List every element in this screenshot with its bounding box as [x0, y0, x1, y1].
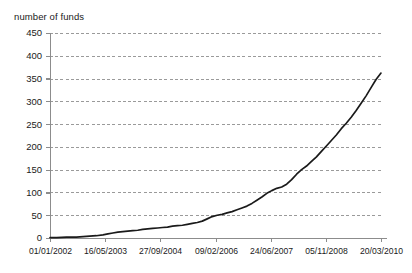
- y-tick-label: 400: [26, 50, 42, 61]
- gridlines-group: [50, 34, 381, 216]
- x-tick-label: 05/11/2008: [305, 246, 348, 256]
- y-tick-label: 200: [26, 141, 42, 152]
- x-tick-labels-group: 01/01/200216/05/200327/09/200409/02/2006…: [29, 246, 403, 256]
- x-tick-label: 09/02/2006: [195, 246, 238, 256]
- chart-container: number of funds 050100150200250300350400…: [0, 0, 412, 273]
- y-tick-label: 50: [31, 210, 42, 221]
- y-tick-label: 150: [26, 164, 42, 175]
- x-tick-label: 20/03/2010: [360, 246, 403, 256]
- y-tick-label: 250: [26, 119, 42, 130]
- x-tick-label: 01/01/2002: [29, 246, 72, 256]
- y-tick-label: 100: [26, 187, 42, 198]
- x-tick-label: 27/09/2004: [139, 246, 182, 256]
- y-tick-label: 0: [37, 232, 42, 243]
- y-tick-label: 300: [26, 96, 42, 107]
- y-axis-group: [46, 33, 51, 239]
- data-series-line: [50, 73, 381, 237]
- x-tick-label: 16/05/2003: [84, 246, 127, 256]
- y-tick-labels-group: 050100150200250300350400450: [26, 27, 42, 243]
- x-tick-label: 24/06/2007: [250, 246, 293, 256]
- y-tick-label: 350: [26, 73, 42, 84]
- y-tick-label: 450: [26, 27, 42, 38]
- data-line-group: [50, 73, 381, 237]
- x-axis-group: [50, 238, 387, 242]
- chart-svg: 050100150200250300350400450 01/01/200216…: [0, 0, 412, 273]
